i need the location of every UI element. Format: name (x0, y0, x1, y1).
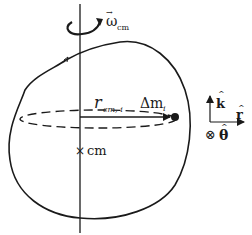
mass-label: Δm (140, 95, 163, 111)
mass-element-dot (171, 113, 179, 121)
orbit-path (20, 110, 176, 128)
rotation-arrowhead-icon (96, 18, 103, 26)
r-hat-label: r (236, 107, 243, 122)
rotation-arrow-icon (67, 22, 100, 34)
radius-label: r (94, 93, 103, 112)
theta-hat-label: θ (219, 127, 228, 143)
radius-subscript: cm, i (103, 105, 123, 114)
omega-subscript: cm (117, 23, 129, 32)
mass-subscript: i (163, 104, 166, 113)
rigid-body-outline (9, 42, 190, 219)
theta-into-page-icon: ⊗ (205, 127, 216, 142)
omega-label: ω (106, 13, 117, 29)
cm-marker-icon: × (75, 144, 85, 158)
cm-label: cm (87, 143, 107, 158)
rigid-body-diagram: → ω cm r cm, i Δm i × cm ^ k ^ r ⊗ ^ θ (0, 0, 252, 235)
k-hat-label: k (216, 96, 226, 111)
